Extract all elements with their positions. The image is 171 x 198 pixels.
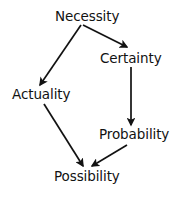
modal-concepts-diagram: Necessity Certainty Actuality Probabilit… xyxy=(0,0,171,198)
node-label-possibility: Possibility xyxy=(54,169,120,184)
node-label-probability: Probability xyxy=(99,127,169,142)
node-label-necessity: Necessity xyxy=(55,9,119,24)
edge-probability-to-possibility xyxy=(92,145,127,166)
node-label-certainty: Certainty xyxy=(100,51,162,66)
edge-necessity-to-certainty xyxy=(83,25,127,47)
edge-necessity-to-actuality xyxy=(40,25,81,85)
node-label-actuality: Actuality xyxy=(12,87,70,102)
edge-actuality-to-possibility xyxy=(44,104,83,166)
